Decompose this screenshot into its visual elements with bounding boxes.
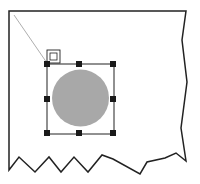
circle-shape[interactable] bbox=[52, 70, 109, 127]
resize-handle-right[interactable] bbox=[110, 96, 116, 102]
resize-handle-top-left[interactable] bbox=[44, 61, 50, 67]
resize-handle-top[interactable] bbox=[76, 61, 82, 67]
resize-handle-bottom-left[interactable] bbox=[44, 130, 50, 136]
resize-handle-left[interactable] bbox=[44, 96, 50, 102]
diagram-canvas bbox=[0, 0, 200, 184]
resize-handle-bottom[interactable] bbox=[76, 130, 82, 136]
resize-handle-bottom-right[interactable] bbox=[110, 130, 116, 136]
resize-handle-top-right[interactable] bbox=[110, 61, 116, 67]
